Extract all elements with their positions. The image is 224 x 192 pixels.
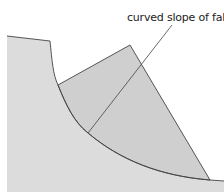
diagram-graphic [0, 0, 224, 192]
annotation-label: curved slope of fall [127, 11, 224, 24]
slump-diagram: curved slope of fall [0, 0, 224, 192]
